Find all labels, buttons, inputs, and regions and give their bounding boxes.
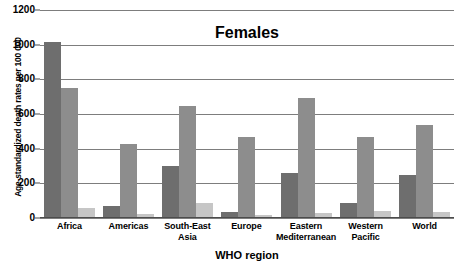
bar-group <box>99 10 158 218</box>
bar <box>196 203 213 218</box>
y-axis-tick-label: 200 <box>18 178 35 188</box>
x-axis-tick-labels: AfricaAmericasSouth-EastAsiaEuropeEaster… <box>40 221 454 242</box>
bar <box>44 42 61 218</box>
y-axis-tick-label: 800 <box>18 74 35 84</box>
x-axis-line <box>40 217 454 218</box>
bar <box>238 137 255 218</box>
y-axis-tick-label: 400 <box>18 144 35 154</box>
plot-area: Females <box>40 10 454 218</box>
x-axis-tick-label: WesternPacific <box>336 221 395 242</box>
bar-group <box>277 10 336 218</box>
bar-chart: Age-standardized death rates per 100 000… <box>0 0 459 266</box>
bar <box>281 173 298 218</box>
bar <box>357 137 374 218</box>
x-axis-tick-label: World <box>395 221 454 242</box>
y-axis-tick-label: 1200 <box>13 5 35 15</box>
bar-group <box>40 10 99 218</box>
y-axis-tick-label: 1000 <box>13 40 35 50</box>
bar <box>340 203 357 218</box>
y-axis-tick-label: 600 <box>18 109 35 119</box>
bar-groups <box>40 10 454 218</box>
x-axis-tick-label: South-EastAsia <box>158 221 217 242</box>
bar <box>120 144 137 218</box>
bar <box>399 175 416 218</box>
x-axis-tick-label: EasternMediterranean <box>276 221 336 242</box>
bar-group <box>395 10 454 218</box>
gridline <box>40 218 454 219</box>
bar <box>298 98 315 218</box>
x-axis-tick-label: Europe <box>217 221 276 242</box>
y-axis-tick-labels: 020040060080010001200 <box>0 0 40 266</box>
bar-group <box>158 10 217 218</box>
bar <box>416 125 433 218</box>
bar <box>61 88 78 218</box>
x-axis-tick-label: Americas <box>99 221 158 242</box>
bar <box>179 106 196 218</box>
bar-group <box>217 10 276 218</box>
bar <box>162 166 179 218</box>
x-axis-tick-label: Africa <box>40 221 99 242</box>
x-axis-title: WHO region <box>40 249 454 261</box>
bar-group <box>336 10 395 218</box>
